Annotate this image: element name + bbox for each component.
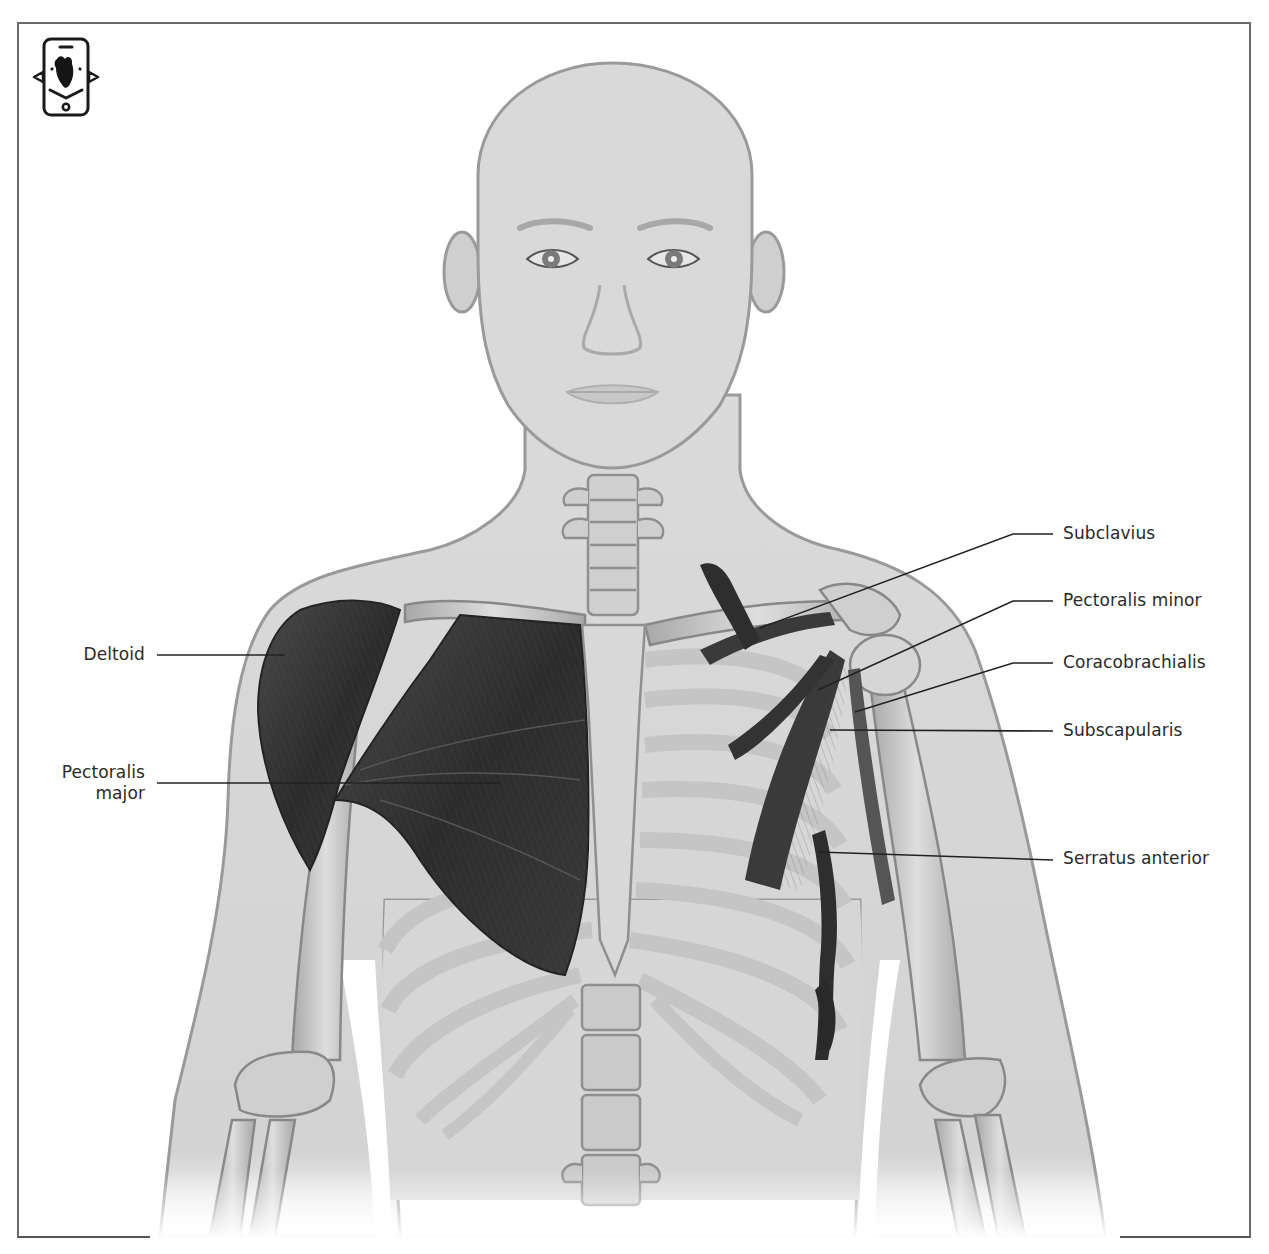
label-deltoid: Deltoid	[60, 644, 145, 665]
label-coracobrachialis: Coracobrachialis	[1063, 652, 1206, 673]
anatomy-illustration	[0, 0, 1269, 1254]
label-pectoralis-minor: Pectoralis minor	[1063, 590, 1202, 611]
label-pectoralis-major-line2: major	[40, 783, 145, 804]
label-subscapularis: Subscapularis	[1063, 720, 1183, 741]
label-serratus-anterior: Serratus anterior	[1063, 848, 1209, 869]
label-subclavius: Subclavius	[1063, 523, 1155, 544]
label-pectoralis-major: Pectoralis major	[40, 762, 145, 804]
leader-subscapularis	[830, 730, 1053, 731]
label-pectoralis-major-line1: Pectoralis	[40, 762, 145, 783]
